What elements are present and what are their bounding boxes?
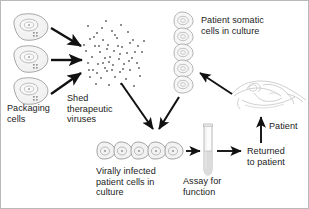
- diagram-arrows: [51, 28, 261, 151]
- infected-cell: [165, 142, 183, 159]
- arrow-cloud-to-infected: [121, 83, 153, 129]
- somatic-cell: [174, 76, 193, 93]
- infected-cell: [131, 142, 149, 159]
- arrow-packaging-1-to-cloud: [51, 28, 81, 46]
- somatic-cell: [174, 44, 193, 61]
- label-patient-somatic-cells: Patient somatic cells in culture: [201, 15, 307, 36]
- label-virally-infected-cells: Virally infected patient cells in cultur…: [96, 166, 168, 198]
- packaging-cell: [14, 46, 48, 73]
- arrow-somatic-to-infected: [159, 97, 179, 129]
- packaging-cells-group: [14, 14, 48, 105]
- label-packaging-cells: Packaging cells: [7, 103, 63, 124]
- somatic-cell: [174, 28, 193, 45]
- infected-cell: [148, 142, 166, 159]
- infected-cell: [97, 142, 115, 159]
- gene-therapy-diagram: Packaging cells Shed therapeutic viruses…: [0, 0, 309, 209]
- assay-test-tube: [203, 124, 212, 175]
- label-shed-therapeutic-viruses: Shed therapeutic viruses: [67, 93, 123, 125]
- arrow-packaging-3-to-cloud: [51, 73, 81, 94]
- label-returned-to-patient: Returned to patient: [247, 146, 307, 167]
- packaging-cell: [14, 78, 48, 105]
- patient-on-bed-illustration: [232, 81, 306, 109]
- arrow-patient-to-somatic: [200, 73, 232, 94]
- patient-somatic-cell-stack: [174, 12, 193, 93]
- label-assay-for-function: Assay for function: [183, 176, 243, 197]
- somatic-cell: [174, 60, 193, 77]
- shed-virus-cloud: [83, 20, 145, 87]
- label-patient: Patient: [269, 121, 309, 132]
- somatic-cell: [174, 12, 193, 29]
- packaging-cell: [14, 14, 48, 41]
- virally-infected-cell-row: [97, 142, 183, 159]
- infected-cell: [114, 142, 132, 159]
